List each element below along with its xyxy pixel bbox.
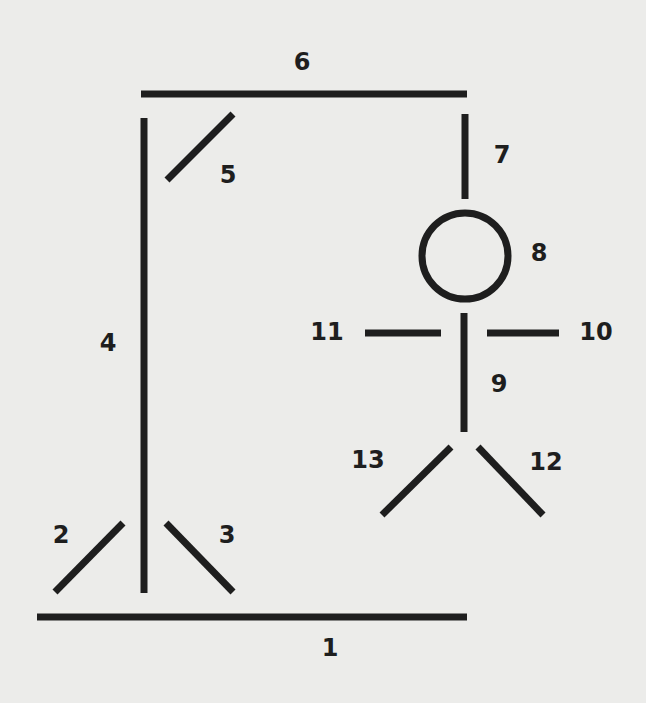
label-head: 8 (531, 241, 548, 265)
label-right-strut: 3 (219, 523, 236, 547)
label-right-leg: 12 (529, 450, 562, 474)
label-left-strut: 2 (53, 523, 70, 547)
label-base: 1 (322, 636, 339, 660)
hangman-diagram: 12345678910111213 (0, 0, 646, 703)
label-body: 9 (491, 372, 508, 396)
diagram-canvas (0, 0, 646, 703)
label-left-leg: 13 (351, 448, 384, 472)
label-left-arm: 11 (310, 320, 343, 344)
label-right-arm: 10 (579, 320, 612, 344)
label-rope: 7 (494, 143, 511, 167)
label-pole: 4 (100, 331, 117, 355)
label-brace: 5 (220, 163, 237, 187)
part-head (422, 213, 508, 299)
part-left-leg (382, 447, 451, 515)
label-beam: 6 (294, 50, 311, 74)
